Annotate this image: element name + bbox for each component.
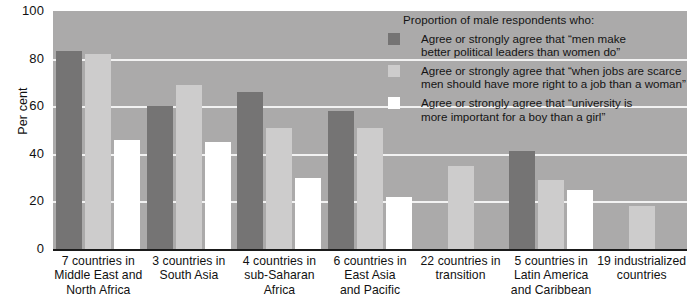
legend-swatch [388,97,400,109]
bar [328,111,354,249]
bar [357,128,383,249]
y-tick-label: 60 [14,98,44,113]
legend-item: Agree or strongly agree that “university… [403,96,691,123]
legend-title: Proportion of male respondents who: [403,13,691,27]
x-axis-label: 19 industrializedcountries [588,254,695,283]
legend-swatch [388,33,400,45]
y-tick-label: 40 [14,146,44,161]
bar-chart: Per cent 100806040200 7 countries inMidd… [0,0,695,302]
bar [386,197,412,249]
y-tick-label: 20 [14,193,44,208]
y-tick-label: 0 [14,241,44,256]
x-axis-label-line: 19 industrialized [588,254,695,268]
y-tick-label: 100 [14,3,44,18]
bar [629,206,655,249]
legend-label-line: men should have more right to a job than… [421,77,691,91]
legend-label-line: Agree or strongly agree that “men make [421,32,691,46]
bar [114,140,140,249]
legend: Proportion of male respondents who: Agre… [403,13,691,128]
legend-item: Agree or strongly agree that “when jobs … [403,64,691,91]
x-axis-label-line: North Africa [45,283,152,297]
bar [266,128,292,249]
legend-label-line: Agree or strongly agree that “when jobs … [421,64,691,78]
bar [176,85,202,249]
x-axis-label-line: countries [588,268,695,282]
legend-item: Agree or strongly agree that “men makebe… [403,32,691,59]
legend-label-line: better political leaders than women do” [421,45,691,59]
legend-rows: Agree or strongly agree that “men makebe… [403,32,691,124]
y-tick-label: 80 [14,51,44,66]
bar [85,54,111,249]
bar [56,51,82,249]
x-axis-label-line: and Pacific [317,283,424,297]
bar [567,190,593,250]
bar [295,178,321,249]
x-axis-line [53,249,687,251]
bar [147,106,173,249]
legend-swatch [388,65,400,77]
legend-label-line: Agree or strongly agree that “university… [421,96,691,110]
bar [509,151,535,249]
x-axis-label-line: and Caribbean [498,283,605,297]
bar [205,142,231,249]
legend-label-line: more important for a boy than a girl” [421,110,691,124]
bar [448,166,474,249]
bar [237,92,263,249]
bar [538,180,564,249]
